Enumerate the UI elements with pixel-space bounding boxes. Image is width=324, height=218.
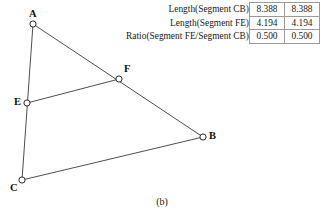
figure-panel: Length(Segment CB) 8.388 8.388 Length(Se… [0, 0, 324, 218]
point-c[interactable] [19, 177, 25, 183]
geometry-canvas[interactable]: ABCEF [0, 0, 324, 218]
geometry-svg [0, 0, 324, 218]
segment-CB[interactable] [22, 137, 203, 180]
point-label-c: C [10, 183, 18, 194]
point-b[interactable] [200, 134, 206, 140]
point-f[interactable] [116, 76, 122, 82]
point-a[interactable] [30, 21, 36, 27]
point-label-b: B [209, 131, 216, 142]
point-label-a: A [29, 9, 37, 20]
segment-EF[interactable] [27, 79, 119, 103]
segment-layer [22, 24, 203, 180]
figure-caption: (b) [0, 196, 324, 207]
point-label-f: F [124, 64, 130, 75]
point-e[interactable] [24, 100, 30, 106]
point-label-e: E [14, 97, 21, 108]
